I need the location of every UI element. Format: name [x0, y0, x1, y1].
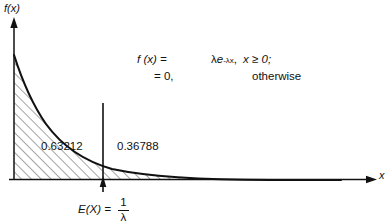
formula-exponent: -λx	[223, 57, 234, 65]
plot-canvas	[0, 0, 391, 224]
expected-value-text: E(X) =	[78, 204, 111, 216]
expected-value-label: E(X) = 1 λ	[78, 197, 129, 223]
area-right-probability-label: 0.36788	[117, 141, 159, 153]
formula-line2-condition: otherwise	[228, 71, 301, 83]
area-left-probability-label: 0.63212	[41, 141, 83, 153]
reciprocal-lambda-fraction: 1 λ	[118, 197, 129, 223]
exponential-distribution-figure: f(x) x f (x) = λe-λx, x ≥ 0; = 0, otherw…	[0, 0, 391, 224]
fraction-denominator: λ	[121, 211, 127, 224]
formula-line2-lhs: = 0,	[137, 71, 228, 83]
x-axis-label: x	[379, 170, 385, 181]
formula-line-2: = 0, otherwise	[137, 71, 301, 83]
formula-line1-lhs: f (x) =	[137, 54, 211, 66]
formula-line1-condition: x ≥ 0;	[237, 54, 271, 66]
fraction-numerator: 1	[120, 197, 126, 210]
pdf-formula: f (x) = λe-λx, x ≥ 0; = 0, otherwise	[137, 54, 301, 82]
expected-value-row: E(X) = 1 λ	[78, 197, 129, 223]
formula-line-1: f (x) = λe-λx, x ≥ 0;	[137, 54, 301, 66]
y-axis-label: f(x)	[4, 3, 20, 14]
